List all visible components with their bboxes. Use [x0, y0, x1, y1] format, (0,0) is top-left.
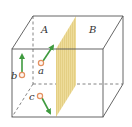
arrow-a-icon — [43, 46, 53, 61]
arrow-c-icon — [42, 98, 50, 113]
region-label-a: A — [40, 24, 48, 35]
dividing-plane — [56, 16, 76, 117]
particle-label-c: c — [29, 91, 35, 102]
velocity-arrows — [22, 46, 53, 113]
particle-b-icon — [19, 72, 24, 77]
particle-label-a: a — [38, 65, 44, 76]
particle-label-b: b — [11, 70, 17, 81]
region-label-b: B — [88, 24, 96, 35]
cube-diagram: A B a b c — [0, 0, 132, 127]
particle-c-icon — [37, 93, 42, 98]
